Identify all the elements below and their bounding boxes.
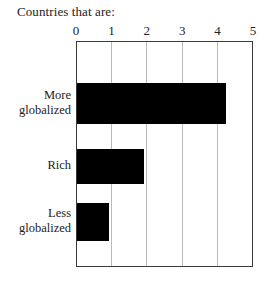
category-label-line: More: [0, 88, 71, 103]
category-label-line: globalized: [0, 103, 71, 118]
category-label: Moreglobalized: [0, 88, 76, 118]
category-label-line: globalized: [0, 221, 71, 236]
bar: [77, 83, 226, 124]
x-axis-tick-label: 3: [179, 24, 186, 38]
bar: [77, 203, 109, 241]
category-label: Lessglobalized: [0, 206, 76, 236]
x-axis-tick-label: 2: [144, 24, 151, 38]
x-axis-tick-label: 1: [108, 24, 115, 38]
y-axis-category-labels: MoreglobalizedRichLessglobalized: [0, 0, 76, 284]
x-axis-tick-label: 4: [214, 24, 221, 38]
gridline: [217, 42, 218, 266]
gridline: [146, 42, 147, 266]
plot-area: [76, 41, 253, 267]
category-label-line: Less: [0, 206, 71, 221]
gridline: [182, 42, 183, 266]
category-label: Rich: [0, 158, 76, 173]
x-axis-tick-label: 5: [250, 24, 257, 38]
category-label-line: Rich: [0, 158, 71, 173]
bar: [77, 149, 144, 184]
